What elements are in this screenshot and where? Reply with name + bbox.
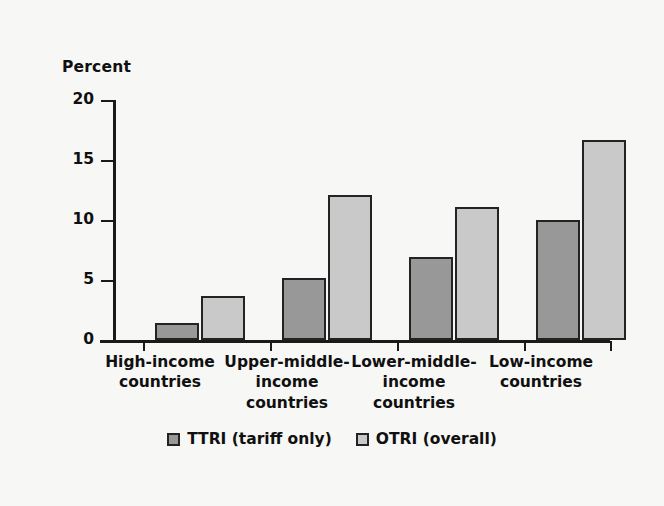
legend-label: OTRI (overall)	[376, 430, 497, 448]
bar	[201, 296, 245, 340]
x-axis-tick	[397, 341, 399, 351]
y-axis-tick: 5	[101, 280, 113, 282]
y-axis-tick-label: 10	[72, 210, 94, 228]
chart-legend: TTRI (tariff only)OTRI (overall)	[0, 430, 664, 448]
x-axis-line	[100, 340, 610, 343]
y-axis-tick-label: 5	[83, 270, 94, 288]
bar	[409, 257, 453, 340]
legend-entry[interactable]: OTRI (overall)	[356, 430, 497, 448]
y-axis-tick: 15	[101, 160, 113, 162]
legend-entry[interactable]: TTRI (tariff only)	[167, 430, 332, 448]
x-axis-tick	[610, 341, 612, 351]
bar	[328, 195, 372, 340]
y-axis-tick: 10	[101, 220, 113, 222]
legend-swatch-icon	[167, 433, 180, 446]
bar	[455, 207, 499, 340]
x-axis-category-label: Low-incomecountries	[466, 352, 616, 393]
category-label-line: Low-income	[466, 352, 616, 372]
bar	[582, 140, 626, 340]
legend-swatch-icon	[356, 433, 369, 446]
bar	[282, 278, 326, 340]
y-axis-caption: Percent	[62, 58, 131, 76]
legend-label: TTRI (tariff only)	[187, 430, 332, 448]
y-axis-line	[113, 100, 116, 341]
bar	[155, 323, 199, 340]
y-axis-tick-label: 0	[83, 330, 94, 348]
y-axis-tick: 20	[101, 100, 113, 102]
x-axis-tick	[524, 341, 526, 351]
x-axis-tick	[270, 341, 272, 351]
y-axis-tick-label: 15	[72, 150, 94, 168]
x-axis-tick	[143, 341, 145, 351]
y-axis-tick-label: 20	[72, 90, 94, 108]
category-label-line: countries	[466, 372, 616, 392]
bar	[536, 220, 580, 340]
plot-area: 05101520	[113, 100, 610, 340]
category-label-line: countries	[339, 393, 489, 413]
y-axis-tick: 0	[101, 340, 113, 342]
chart-figure: Percent 05101520 High-incomecountriesUpp…	[0, 0, 664, 506]
